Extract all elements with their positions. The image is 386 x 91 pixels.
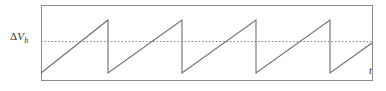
sawtooth-waveform-trace xyxy=(41,20,372,73)
plot-canvas xyxy=(0,0,386,91)
voltage-symbol: V xyxy=(17,30,24,42)
y-axis-label: ΔVh xyxy=(10,31,28,45)
x-axis-label: t xyxy=(369,66,372,76)
sawtooth-waveform-figure: ΔVh t xyxy=(0,0,386,91)
plot-frame xyxy=(42,6,373,81)
voltage-subscript: h xyxy=(24,36,28,45)
